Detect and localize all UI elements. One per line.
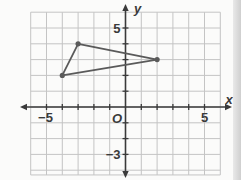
- x-axis-arrow-left-icon: [20, 104, 27, 110]
- y-tick-label-5: 5: [113, 21, 120, 36]
- page-edge-shadow: [233, 0, 241, 180]
- vertex-point: [155, 57, 160, 62]
- y-tick-label-neg3: −3: [106, 147, 121, 162]
- x-tick-label-5: 5: [201, 110, 208, 125]
- origin-label: O: [112, 111, 122, 126]
- coordinate-plane: x y O −5 5 5 −3: [0, 0, 241, 180]
- y-axis-arrow-up-icon: [122, 4, 128, 11]
- vertex-point: [76, 41, 81, 46]
- vertex-point: [60, 73, 65, 78]
- x-tick-label-neg5: −5: [38, 110, 53, 125]
- y-axis-label: y: [133, 1, 142, 16]
- coordinate-plane-figure: x y O −5 5 5 −3: [0, 0, 241, 180]
